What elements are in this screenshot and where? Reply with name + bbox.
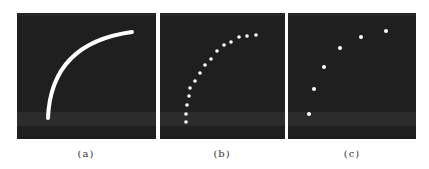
dense-point-set — [160, 13, 285, 139]
sample-point — [222, 43, 226, 47]
sparse-point-set — [288, 13, 416, 139]
sample-point — [322, 65, 326, 69]
sample-point — [187, 94, 191, 98]
sample-point — [384, 29, 388, 33]
sample-point — [245, 34, 249, 38]
sample-point — [184, 112, 188, 116]
sample-point — [198, 71, 202, 75]
panel-b — [160, 13, 285, 139]
sample-point — [312, 87, 316, 91]
sample-point — [254, 33, 258, 37]
sample-point — [338, 46, 342, 50]
sample-point — [307, 112, 311, 116]
sample-point — [209, 57, 213, 61]
sample-point — [193, 79, 197, 83]
sample-point — [184, 120, 188, 124]
sample-point — [229, 40, 233, 44]
sample-point — [215, 49, 219, 53]
sample-point — [203, 63, 207, 67]
panel-c — [288, 13, 416, 139]
caption-b: (b) — [202, 148, 242, 159]
caption-a: (a) — [66, 148, 106, 159]
sample-point — [185, 103, 189, 107]
caption-c: (c) — [332, 148, 372, 159]
sample-point — [359, 35, 363, 39]
panel-a — [17, 13, 156, 139]
sample-point — [188, 86, 192, 90]
continuous-curve — [17, 13, 156, 139]
sample-point — [237, 35, 241, 39]
